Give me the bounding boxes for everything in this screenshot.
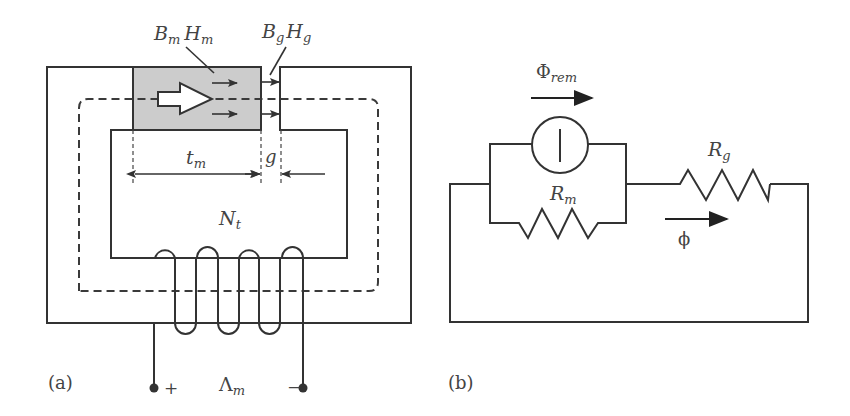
thickness-label: tm	[186, 146, 206, 171]
remanent-flux-label: Φrem	[536, 61, 577, 85]
magnet-field-label: BmHm	[153, 22, 213, 47]
magnetic-equivalent-circuit	[450, 144, 808, 322]
magnet-reluctance-resistor	[513, 209, 604, 238]
gap-reluctance-label: Rg	[707, 138, 731, 163]
magnet-reluctance-label: Rm	[549, 182, 577, 207]
flux-linkage-label: Λm	[218, 373, 245, 398]
terminal-plus-sign: +	[164, 378, 178, 398]
leader-line-gap	[270, 47, 286, 75]
panel-label-b: (b)	[448, 372, 474, 393]
terminal-minus-sign: −	[287, 377, 301, 397]
gap-reluctance-resistor	[626, 170, 770, 200]
panel-label-a: (a)	[48, 372, 73, 393]
loop-flux-label: ϕ	[678, 228, 690, 249]
parallel-branch-right	[588, 144, 626, 223]
terminal-positive[interactable]	[150, 384, 159, 393]
turns-label: Nt	[218, 207, 242, 232]
parallel-branch-left	[490, 144, 532, 223]
figure-canvas: BmHm BgHg tm g Nt + − Λm (a	[0, 0, 850, 416]
gap-dim-label: g	[265, 146, 277, 167]
diagram-svg: BmHm BgHg tm g Nt + − Λm (a	[0, 0, 850, 416]
gap-field-label: BgHg	[261, 20, 311, 45]
circuit-loop-wire	[450, 184, 808, 322]
